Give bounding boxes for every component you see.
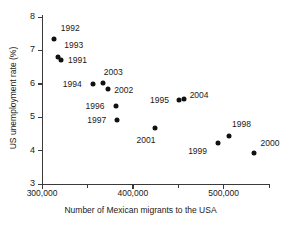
data-point — [113, 104, 118, 109]
x-axis-line — [42, 184, 270, 185]
data-point — [51, 36, 56, 41]
y-tick-label: 8 — [24, 12, 35, 21]
data-point-label: 1999 — [188, 147, 207, 156]
data-point-label: 1996 — [86, 102, 105, 111]
data-point — [216, 141, 221, 146]
y-tick-label: 4 — [24, 146, 35, 155]
data-point — [152, 125, 157, 130]
y-tick-label: 6 — [24, 79, 35, 88]
data-point-label: 2000 — [260, 139, 279, 148]
chart-figure: 876543 300,000400,000500,000 19921993199… — [0, 0, 281, 230]
data-point-label: 2004 — [190, 91, 209, 100]
data-point-label: 1995 — [150, 96, 169, 105]
y-tick-label: 5 — [24, 112, 35, 121]
data-point-label: 1997 — [87, 116, 106, 125]
x-tick-mark — [269, 185, 270, 188]
data-point-label: 1991 — [68, 56, 87, 65]
data-point-label: 1992 — [61, 24, 80, 33]
data-point — [115, 117, 120, 122]
x-tick-label: 400,000 — [117, 189, 148, 198]
y-axis-title: US unemployment rate (%) — [8, 28, 18, 168]
y-tick-label: 3 — [24, 179, 35, 188]
x-axis-title: Number of Mexican migrants to the USA — [0, 205, 281, 215]
data-point — [252, 151, 257, 156]
x-tick-label: 300,000 — [27, 189, 58, 198]
data-point-label: 1994 — [63, 80, 82, 89]
plot-area: 1992199319911994200320021996199720011995… — [42, 17, 269, 184]
data-point-label: 1993 — [64, 41, 83, 50]
data-point — [100, 81, 105, 86]
data-point — [181, 96, 186, 101]
data-point — [59, 58, 64, 63]
x-tick-mark — [87, 185, 88, 188]
data-point-label: 2001 — [137, 136, 156, 145]
data-point — [106, 86, 111, 91]
x-tick-label: 500,000 — [208, 189, 239, 198]
data-point — [227, 133, 232, 138]
x-tick-mark — [178, 185, 179, 188]
data-point-label: 1998 — [232, 120, 251, 129]
y-tick-label: 7 — [24, 45, 35, 54]
data-point — [90, 82, 95, 87]
data-point-label: 2002 — [114, 86, 133, 95]
data-point-label: 2003 — [104, 68, 123, 77]
